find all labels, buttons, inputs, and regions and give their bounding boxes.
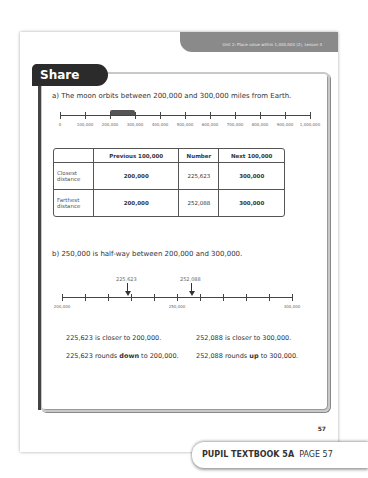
cell-next: 300,000 <box>219 163 284 190</box>
cell-next: 300,000 <box>219 190 284 216</box>
tick-label: 500,000 <box>177 122 194 127</box>
tick-label-end: 300,000 <box>284 304 301 309</box>
table-row: Closest distance 200,000 225,623 300,000 <box>54 163 284 190</box>
textbook-page: Unit 2: Place value within 1,000,000 (2)… <box>20 32 338 452</box>
tick-label-mid: 250,000 <box>169 304 186 309</box>
row-label: Closest distance <box>54 163 94 190</box>
tick-label: 900,000 <box>277 122 294 127</box>
cell-previous: 200,000 <box>94 163 179 190</box>
header-previous: Previous 100,000 <box>94 149 179 163</box>
conclusion-right-1: 252,088 is closer to 300,000. <box>196 334 291 342</box>
tick-label: 700,000 <box>227 122 244 127</box>
number-line-a: 0 100,000 200,000 300,000 400,000 500,00… <box>60 108 310 128</box>
conclusion-left-2: 225,623 rounds down to 200,000. <box>66 352 179 360</box>
tick-label: 800,000 <box>252 122 269 127</box>
page-label: PAGE 57 <box>299 450 333 459</box>
tick-label: 300,000 <box>127 122 144 127</box>
number-line-b: 200,000 250,000 300,000 <box>62 290 292 310</box>
conclusion-right-2: 252,088 rounds up to 300,000. <box>196 352 298 360</box>
page-number: 57 <box>318 425 326 432</box>
tick-label: 100,000 <box>77 122 94 127</box>
tick-label: 0 <box>59 122 62 127</box>
tick-label: 1,000,000 <box>300 122 320 127</box>
part-a-statement: a) The moon orbits between 200,000 and 3… <box>52 92 291 100</box>
tick-label-start: 200,000 <box>54 304 71 309</box>
distance-table: Previous 100,000 Number Next 100,000 Clo… <box>53 148 285 217</box>
cell-number: 225,623 <box>179 163 219 190</box>
marker-label-1: 225,623 <box>116 276 137 282</box>
row-label: Farthest distance <box>54 190 94 216</box>
table-row: Farthest distance 200,000 252,088 300,00… <box>54 190 284 216</box>
tick-label: 400,000 <box>152 122 169 127</box>
header-number: Number <box>179 149 219 163</box>
unit-banner: Unit 2: Place value within 1,000,000 (2)… <box>180 32 338 52</box>
cell-number: 252,088 <box>179 190 219 216</box>
table-header-row: Previous 100,000 Number Next 100,000 <box>54 149 284 163</box>
share-badge: Share <box>32 64 108 86</box>
cell-previous: 200,000 <box>94 190 179 216</box>
tick-label: 600,000 <box>202 122 219 127</box>
footer-tab: PUPIL TEXTBOOK 5A PAGE 57 <box>192 442 368 468</box>
book-title: PUPIL TEXTBOOK 5A <box>202 450 294 459</box>
frame-left-bar <box>38 72 41 410</box>
marker-label-2: 252,088 <box>180 276 201 282</box>
conclusion-left-1: 225,623 is closer to 200,000. <box>66 334 161 342</box>
part-b-statement: b) 250,000 is half-way between 200,000 a… <box>52 250 242 258</box>
header-next: Next 100,000 <box>219 149 284 163</box>
tick-label: 200,000 <box>102 122 119 127</box>
